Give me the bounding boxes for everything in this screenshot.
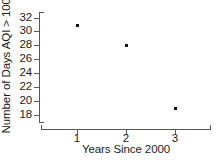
y-axis-tick-label: 20	[14, 95, 32, 107]
y-axis-tick-label: 32	[14, 12, 32, 24]
x-axis-cap-right	[210, 125, 211, 130]
y-axis-title: Number of Days AQI > 100	[0, 0, 14, 131]
y-axis-tick-label-text: 18	[16, 109, 32, 121]
y-axis-cap-top	[39, 12, 44, 13]
y-axis-tick-label: 22	[14, 81, 32, 93]
y-axis-tick-label-text: 24	[16, 67, 32, 79]
data-point	[76, 24, 79, 27]
x-axis-title: Years Since 2000	[41, 144, 211, 156]
y-axis-tick	[34, 31, 39, 32]
y-axis-tick-label-text: 30	[16, 25, 32, 37]
data-point	[125, 44, 128, 47]
y-axis-tick-label-text: 26	[16, 53, 32, 65]
x-axis-cap-left	[41, 125, 42, 130]
y-axis-tick	[34, 59, 39, 60]
y-axis-tick	[34, 45, 39, 46]
y-axis-cap-bottom	[39, 122, 44, 123]
y-axis-tick-label-text: 28	[16, 39, 32, 51]
y-axis-tick-label: 26	[14, 53, 32, 65]
scatter-plot-figure: Number of Days AQI > 100 323028262422201…	[0, 0, 218, 163]
y-axis-tick-label: 18	[14, 109, 32, 121]
y-axis-tick	[34, 115, 39, 116]
y-axis-tick-label: 28	[14, 39, 32, 51]
y-axis-tick-label-text: 20	[16, 95, 32, 107]
y-axis-title-text: Number of Days AQI > 100	[1, 0, 13, 133]
data-point	[174, 107, 177, 110]
y-axis-tick-label: 30	[14, 25, 32, 37]
y-axis-tick-label: 24	[14, 67, 32, 79]
y-axis-tick	[34, 18, 39, 19]
y-axis-tick	[34, 101, 39, 102]
y-axis-tick-label-text: 32	[16, 12, 32, 24]
y-axis-tick-label-text: 22	[16, 81, 32, 93]
y-axis-line	[39, 12, 40, 123]
y-axis-tick	[34, 87, 39, 88]
y-axis-tick	[34, 73, 39, 74]
